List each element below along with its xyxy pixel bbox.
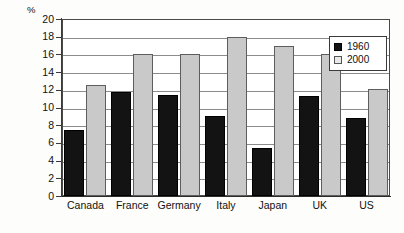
bar-group (109, 19, 156, 196)
bar-us-2000 (368, 89, 388, 196)
y-axis-tick-label: 10 (24, 102, 54, 112)
y-axis-tick-label: 8 (24, 120, 54, 130)
legend-label: 1960 (347, 41, 369, 52)
bar-germany-1960 (158, 95, 178, 196)
y-axis-tick-label: 0 (24, 191, 54, 201)
legend-entry-2000: 2000 (334, 53, 382, 66)
bar-uk-2000 (321, 54, 341, 196)
y-axis-tick-label: 6 (24, 137, 54, 147)
y-axis-tick-label: 4 (24, 155, 54, 165)
legend-label: 2000 (347, 54, 369, 65)
y-axis-tick-label: 2 (24, 173, 54, 183)
legend-entry-1960: 1960 (334, 40, 382, 53)
black-square-icon (334, 43, 342, 51)
bar-italy-2000 (227, 37, 247, 196)
gray-square-icon (334, 56, 342, 64)
y-axis-tick-label: 12 (24, 84, 54, 94)
category-label-italy: Italy (203, 199, 250, 211)
bar-group (156, 19, 203, 196)
category-label-france: France (109, 199, 156, 211)
bar-group (203, 19, 250, 196)
category-label-us: US (343, 199, 390, 211)
y-axis-tick-label: 18 (24, 31, 54, 41)
bar-canada-2000 (86, 85, 106, 196)
bar-us-1960 (346, 118, 366, 196)
category-label-uk: UK (296, 199, 343, 211)
bar-group (62, 19, 109, 196)
bar-germany-2000 (180, 54, 200, 196)
category-label-japan: Japan (249, 199, 296, 211)
bar-canada-1960 (64, 130, 84, 196)
category-label-canada: Canada (62, 199, 109, 211)
bar-japan-2000 (274, 46, 294, 196)
bar-uk-1960 (299, 96, 319, 196)
y-axis-tick (56, 196, 62, 197)
bar-chart: % 02468101214161820 CanadaFranceGermanyI… (0, 0, 404, 233)
chart-legend: 1960 2000 (329, 36, 387, 71)
y-axis-tick-label: 14 (24, 67, 54, 77)
bar-france-2000 (133, 54, 153, 196)
category-label-germany: Germany (156, 199, 203, 211)
bar-japan-1960 (252, 148, 272, 196)
y-axis-tick-label: 16 (24, 49, 54, 59)
bar-group (249, 19, 296, 196)
bar-france-1960 (111, 92, 131, 196)
bar-italy-1960 (205, 116, 225, 196)
y-axis-tick-label: 20 (24, 14, 54, 24)
